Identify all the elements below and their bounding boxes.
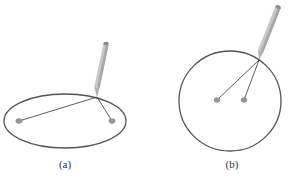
- pin-icon: [214, 98, 220, 103]
- circle-curve: [179, 51, 281, 151]
- string-left: [19, 97, 97, 121]
- pin-icon: [16, 119, 22, 124]
- pencil-icon: [258, 4, 281, 60]
- ellipse-circle-diagram: (a) (b): [0, 0, 289, 182]
- string-right: [244, 60, 259, 100]
- figure-b: (b): [179, 4, 281, 171]
- pin-icon: [109, 119, 115, 124]
- pin-icon: [241, 98, 247, 103]
- string-left: [217, 60, 259, 100]
- figure-a: (a): [4, 42, 126, 171]
- pencil-icon: [94, 42, 109, 97]
- figure-label-a: (a): [59, 158, 72, 171]
- figure-label-b: (b): [226, 158, 239, 171]
